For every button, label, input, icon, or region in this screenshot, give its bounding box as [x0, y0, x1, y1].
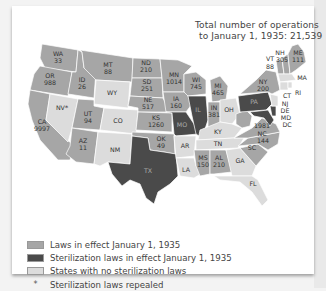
value-MT: 88	[104, 68, 112, 75]
legend-label: Sterilization laws repealed	[50, 280, 163, 290]
label-SD: SD	[143, 78, 152, 85]
label-MD: MD	[281, 114, 291, 121]
label-RI: RI	[295, 89, 301, 96]
value-AZ: 11	[79, 144, 87, 151]
value-WA: 33	[54, 57, 62, 64]
label-GA: GA	[235, 157, 245, 164]
asterisk-icon: *	[27, 280, 44, 289]
value-KS: 1260	[148, 121, 164, 128]
legend-swatch-light	[27, 267, 44, 275]
legend-label: Laws in effect January 1, 1935	[50, 240, 180, 250]
value-SD: 251	[141, 85, 153, 92]
label-MA: MA	[297, 74, 307, 81]
value-VT: 88	[266, 63, 274, 70]
legend-item-laws-in-effect: Laws in effect January 1, 1935	[27, 238, 232, 251]
state-WV[interactable]	[236, 110, 252, 128]
value-NH: 305	[276, 56, 288, 63]
label-SC: SC	[248, 144, 257, 151]
label-NH: NH	[275, 49, 285, 56]
label-MT: MT	[103, 61, 112, 68]
label-NM: NM	[110, 146, 120, 153]
value-UT: 94	[84, 117, 92, 124]
label-OK: OK	[156, 135, 166, 142]
label-AZ: AZ	[79, 137, 88, 144]
label-NC: NC	[257, 130, 267, 137]
label-VT: VT	[266, 55, 274, 62]
legend-swatch-dark	[27, 254, 44, 262]
value-MS: 150	[197, 161, 209, 168]
label-NV: NV*	[56, 104, 68, 111]
state-RI[interactable]	[288, 82, 292, 88]
value-NY: 200	[257, 85, 269, 92]
value-CA: 9997	[34, 125, 50, 132]
label-CO: CO	[113, 117, 122, 124]
label-CA: CA	[38, 118, 47, 125]
value-NC: 144	[257, 137, 269, 144]
label-NY: NY	[259, 78, 268, 85]
label-AL: AL	[215, 154, 223, 161]
label-TN: TN	[213, 140, 223, 147]
label-KS: KS	[152, 114, 160, 121]
label-MI: MI	[214, 82, 221, 89]
state-CT[interactable]	[280, 82, 288, 90]
value-ND: 210	[140, 66, 152, 73]
value-VA: 1981	[254, 122, 270, 129]
map-legend: Laws in effect January 1, 1935 Steriliza…	[27, 238, 232, 291]
label-IL: IL	[195, 106, 201, 113]
value-OK: 49	[157, 142, 165, 149]
legend-item-no-laws: States with no sterilization laws	[27, 265, 232, 278]
legend-item-repealed: * Sterilization laws repealed	[27, 278, 232, 291]
label-ME: ME	[293, 49, 302, 56]
label-FL: FL	[249, 180, 257, 187]
label-ND: ND	[141, 59, 151, 66]
label-NE: NE	[144, 96, 153, 103]
label-TX: TX	[143, 167, 153, 174]
value-IA: 160	[170, 102, 182, 109]
label-WA: WA	[53, 50, 64, 57]
value-WI: 745	[190, 83, 202, 90]
label-WI: WI	[192, 76, 200, 83]
legend-item-sterilization-laws: Sterilization laws in effect January 1, …	[27, 251, 232, 264]
label-MO: MO	[177, 121, 187, 128]
label-UT: UT	[84, 110, 93, 117]
label-LA: LA	[182, 166, 191, 173]
state-FL[interactable]	[214, 176, 268, 206]
label-OH: OH	[224, 106, 234, 113]
value-AL: 210	[213, 161, 225, 168]
label-IA: IA	[173, 95, 180, 102]
legend-swatch-medium	[27, 241, 44, 249]
label-OR: OR	[45, 72, 55, 79]
value-ID: 26	[78, 83, 86, 90]
state-MA[interactable]	[278, 74, 296, 82]
value-IN: 381	[208, 111, 220, 118]
label-ID: ID	[79, 76, 86, 83]
label-AR: AR	[181, 142, 190, 149]
value-MN: 1014	[166, 78, 182, 85]
label-DE: DE	[281, 107, 290, 114]
label-PA: PA	[250, 98, 258, 105]
value-ME: 111	[292, 56, 304, 63]
value-OR: 988	[44, 79, 56, 86]
value-NE: 517	[142, 103, 154, 110]
label-MS: MS	[198, 154, 207, 161]
label-IN: IN	[211, 104, 218, 111]
label-WY: WY	[107, 89, 117, 96]
legend-label: States with no sterilization laws	[50, 266, 186, 276]
label-CT: CT	[283, 92, 291, 99]
legend-label: Sterilization laws in effect January 1, …	[50, 253, 232, 263]
label-KY: KY	[214, 128, 222, 135]
label-MN: MN	[169, 71, 179, 78]
label-DC: DC	[282, 121, 292, 128]
value-MI: 465	[212, 89, 224, 96]
